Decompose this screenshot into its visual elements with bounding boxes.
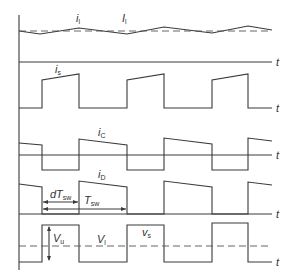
label-vs: vs xyxy=(142,226,152,239)
waveform-diagram: t il Il t is t iC t iD dTsw Tsw t xyxy=(0,0,296,277)
panel-inductor-current: t il Il xyxy=(19,12,280,68)
arrowhead-right-icon xyxy=(121,207,126,211)
label-Il: Il xyxy=(122,12,127,25)
panel-diode-current: t iD dTsw Tsw xyxy=(19,168,280,220)
arrowhead-left-icon xyxy=(43,207,48,211)
arrowhead-down-icon xyxy=(47,256,51,261)
t-label-2: t xyxy=(276,102,280,114)
label-dtsw: dTsw xyxy=(50,188,72,201)
t-label-1: t xyxy=(276,56,280,68)
arrowhead-right-icon xyxy=(73,200,78,204)
t-label-5: t xyxy=(276,256,280,268)
switch-current-waveform xyxy=(19,74,272,108)
label-is: is xyxy=(55,63,61,76)
panel-capacitor-current: t iC xyxy=(19,126,280,170)
arrowhead-left-icon xyxy=(43,200,48,204)
panel-switch-current: t is xyxy=(19,63,280,114)
label-il: il xyxy=(76,12,80,25)
label-vl: Vl xyxy=(97,233,106,246)
t-label-4: t xyxy=(276,208,280,220)
arrowhead-up-icon xyxy=(47,226,51,231)
inductor-current-waveform xyxy=(19,26,272,34)
t-label-3: t xyxy=(276,149,280,161)
label-ic: iC xyxy=(98,126,106,139)
panel-switch-voltage: t Vu Vl vs xyxy=(19,223,280,268)
label-id: iD xyxy=(98,168,106,181)
label-tsw: Tsw xyxy=(84,194,100,207)
capacitor-current-waveform xyxy=(19,138,272,170)
label-vu: Vu xyxy=(53,232,64,245)
